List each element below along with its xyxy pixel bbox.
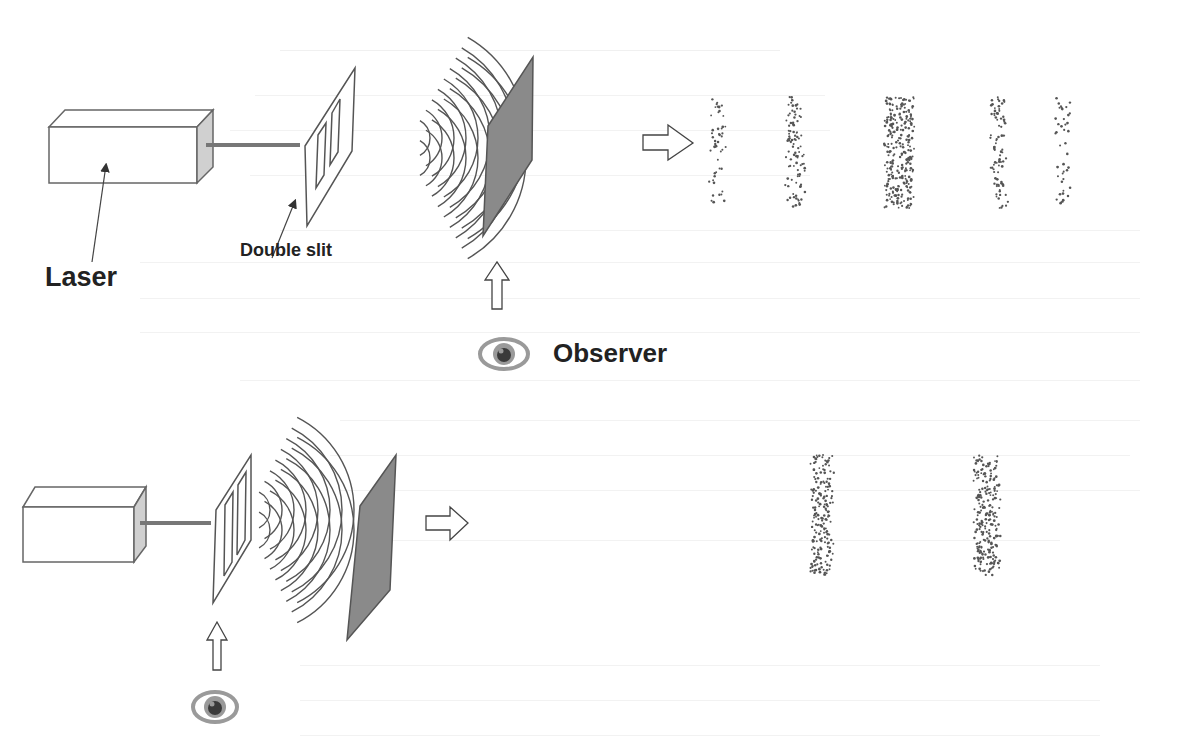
pattern-band bbox=[809, 454, 835, 576]
double-slit-plate bbox=[213, 455, 251, 603]
laser-label: Laser bbox=[45, 262, 117, 293]
wavefront-arc bbox=[286, 459, 330, 602]
result-arrow bbox=[426, 507, 468, 540]
wavefront-arc bbox=[426, 130, 442, 186]
wavefront-arc bbox=[450, 69, 490, 208]
double-slit-plate bbox=[305, 68, 355, 226]
pattern-band bbox=[708, 98, 727, 203]
pattern-band bbox=[989, 96, 1009, 209]
wavefronts bbox=[259, 417, 354, 622]
detection-screen bbox=[483, 57, 533, 236]
eye-icon bbox=[193, 692, 237, 722]
wavefront-arc bbox=[286, 439, 330, 582]
detection-screen bbox=[347, 455, 396, 640]
double-slit-label: Double slit bbox=[240, 240, 332, 261]
observer-up-arrow bbox=[207, 622, 227, 670]
pattern-band bbox=[973, 455, 1002, 577]
laser-device bbox=[23, 487, 146, 562]
eye-icon bbox=[480, 339, 528, 369]
wavefront-arc bbox=[265, 481, 282, 538]
laser-device bbox=[49, 110, 213, 183]
observer-label: Observer bbox=[553, 338, 667, 369]
result-arrow bbox=[643, 125, 693, 160]
pattern-band bbox=[1054, 97, 1071, 205]
pattern-band bbox=[883, 96, 915, 209]
observer-up-arrow bbox=[485, 262, 509, 309]
double-slit-diagram bbox=[0, 0, 1177, 755]
two-band-pattern bbox=[809, 454, 1001, 576]
interference-pattern bbox=[708, 96, 1071, 209]
wavefront-arc bbox=[426, 110, 442, 166]
bottom-panel bbox=[23, 417, 1002, 670]
pattern-band bbox=[784, 96, 806, 208]
top-panel bbox=[49, 37, 1071, 309]
wavefront-arc bbox=[265, 501, 282, 558]
